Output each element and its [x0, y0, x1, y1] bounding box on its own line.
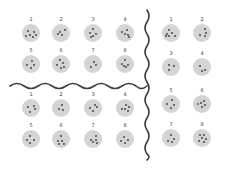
colony-dot — [30, 67, 32, 69]
plate-group-right: 12345678 — [162, 16, 211, 147]
colony-dot — [57, 140, 59, 142]
diagram-canvas: 123456781234567812345678 — [0, 0, 225, 169]
colony-dot — [33, 105, 35, 107]
plate-circle — [116, 130, 134, 148]
colony-dot — [95, 135, 97, 137]
colony-dot — [174, 35, 176, 37]
colony-dot — [201, 70, 203, 72]
colony-dot — [89, 107, 91, 109]
colony-dot — [56, 64, 58, 66]
plate-circle — [22, 130, 40, 148]
colony-dot — [204, 104, 206, 106]
petri-plate: 2 — [52, 91, 70, 117]
plate-label: 6 — [59, 47, 62, 53]
colony-dot — [31, 60, 33, 62]
colony-dot — [124, 59, 126, 61]
colony-dot — [201, 106, 203, 108]
colony-dot — [59, 59, 61, 61]
colony-dot — [34, 108, 36, 110]
colony-dot — [93, 61, 95, 63]
colony-dot — [90, 139, 92, 141]
colony-dot — [199, 134, 201, 136]
colony-dot — [58, 143, 60, 145]
colony-dot — [29, 34, 31, 36]
colony-dot — [127, 64, 129, 66]
colony-dot — [199, 65, 201, 67]
colony-dot — [27, 106, 29, 108]
colony-dot — [29, 111, 31, 113]
colony-dot — [168, 69, 170, 71]
colony-dot — [90, 36, 92, 38]
horizontal-divider — [10, 84, 147, 89]
plate-circle — [84, 99, 102, 117]
colony-dot — [63, 66, 65, 68]
petri-plate: 4 — [116, 91, 134, 117]
colony-dot — [128, 36, 130, 38]
plate-label: 4 — [123, 16, 126, 22]
plate-label: 5 — [29, 47, 32, 53]
plate-label: 6 — [200, 87, 203, 93]
colony-dot — [127, 110, 129, 112]
colony-dot — [61, 104, 63, 106]
plate-circle — [52, 55, 70, 73]
plate-circle — [22, 99, 40, 117]
plate-label: 8 — [123, 47, 126, 53]
plate-circle — [116, 55, 134, 73]
colony-dot — [59, 31, 61, 33]
plate-label: 2 — [59, 16, 62, 22]
petri-plate: 1 — [22, 91, 40, 117]
colony-dot — [121, 31, 123, 33]
colony-dot — [166, 33, 168, 35]
colony-dot — [127, 34, 129, 36]
colony-dot — [167, 140, 169, 142]
colony-dot — [96, 142, 98, 144]
colony-dot — [92, 141, 94, 143]
colony-dot — [171, 99, 173, 101]
colony-dot — [26, 139, 28, 141]
colony-dot — [60, 135, 62, 137]
plate-label: 3 — [91, 16, 94, 22]
colony-dot — [58, 108, 60, 110]
colony-dot — [61, 34, 63, 36]
plate-label: 7 — [91, 47, 94, 53]
plate-label: 3 — [91, 91, 94, 97]
petri-plate: 3 — [84, 16, 102, 42]
plate-circle — [193, 95, 211, 113]
colony-dot — [96, 106, 98, 108]
plate-circle — [116, 99, 134, 117]
plate-label: 1 — [29, 16, 32, 22]
petri-plate: 3 — [84, 91, 102, 117]
petri-plate: 2 — [193, 16, 211, 42]
colony-dot — [92, 35, 94, 37]
colony-dot — [25, 35, 27, 37]
petri-plate: 3 — [162, 50, 180, 76]
petri-plate: 7 — [84, 47, 102, 73]
plate-diagram: 123456781234567812345678 — [0, 0, 225, 169]
colony-dot — [124, 33, 126, 35]
colony-dot — [95, 64, 97, 66]
colony-dot — [92, 28, 94, 30]
colony-dot — [89, 32, 91, 34]
colony-dot — [124, 142, 126, 144]
petri-plate: 6 — [52, 47, 70, 73]
colony-dot — [61, 140, 63, 142]
colony-dot — [168, 35, 170, 37]
colony-dot — [35, 34, 37, 36]
colony-dot — [170, 134, 172, 136]
plate-label: 6 — [59, 122, 62, 128]
colony-dot — [124, 108, 126, 110]
petri-plate: 1 — [22, 16, 40, 42]
plate-label: 3 — [169, 50, 172, 56]
plate-group-top-left: 12345678 — [22, 16, 134, 73]
petri-plate: 1 — [162, 16, 180, 42]
colony-dot — [203, 141, 205, 143]
colony-dot — [125, 104, 127, 106]
petri-plate: 6 — [52, 122, 70, 148]
colony-dot — [64, 29, 66, 31]
colony-dot — [173, 138, 175, 140]
colony-dot — [32, 36, 34, 38]
petri-plate: 8 — [116, 122, 134, 148]
plate-circle — [84, 24, 102, 42]
colony-dot — [94, 104, 96, 106]
colony-dot — [173, 104, 175, 106]
